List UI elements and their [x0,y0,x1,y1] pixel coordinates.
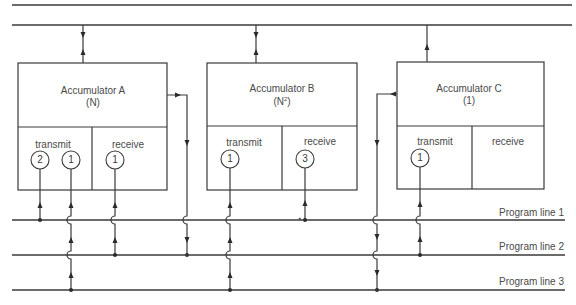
a-transmit-program-1: 1 [62,154,80,166]
program-line-2-label: Program line 2 [499,241,564,252]
accumulator-a-title: Accumulator A [61,85,125,97]
accumulator-c-receive-label: receive [492,136,524,148]
accumulator-c-transmit-label: transmit [417,136,453,148]
b-receive-program-3: 3 [296,153,314,165]
accumulator-c-param: (1) [463,95,475,107]
diagram-canvas [0,0,576,305]
a-transmit-program-2: 2 [31,154,49,166]
accumulator-a-transmit-label: transmit [35,139,71,151]
b-transmit-program-1: 1 [221,153,239,165]
accumulator-c-title: Accumulator C [436,83,502,95]
accumulator-c-bus-connection [425,25,430,62]
accumulator-b-bus-connection [254,25,259,63]
program-line-1-label: Program line 1 [499,207,564,218]
accumulator-a-output-path [167,93,190,258]
accumulator-a-param: (N) [86,97,100,109]
accumulator-c-input-path [373,92,397,293]
a-receive-program-1: 1 [106,154,124,166]
accumulator-a-bus-connection [81,25,86,63]
a-receive-1-connection [106,151,124,257]
accumulator-b-transmit-label: transmit [226,137,262,149]
accumulator-b-title: Accumulator B [249,83,314,95]
c-transmit-program-1: 1 [411,152,429,164]
program-line-3-label: Program line 3 [499,276,564,287]
accumulator-c-box [397,62,544,189]
accumulator-b-receive-label: receive [304,136,336,148]
accumulator-b-param: (N2) [273,96,290,108]
accumulator-a-receive-label: receive [112,139,144,151]
